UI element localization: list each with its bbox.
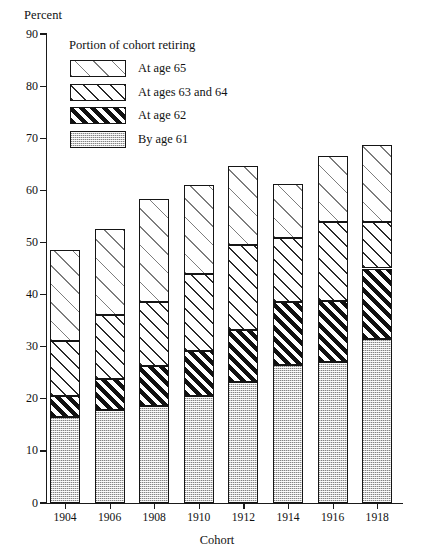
bar-1916 [318,156,348,503]
bar-segment [50,341,80,395]
bar-segment [228,166,258,245]
x-axis-title: Cohort [0,533,434,548]
x-tick [65,503,66,509]
bar-segment [184,274,214,351]
bar-segment [318,362,348,503]
legend-label: By age 61 [138,132,188,147]
bar-segment [184,185,214,274]
y-tick-label: 10 [0,444,38,456]
bar-segment [273,302,303,365]
bar-segment [362,222,392,269]
y-tick-label: 70 [0,132,38,144]
y-tick-label: 60 [0,184,38,196]
x-tick-label: 1906 [87,512,133,524]
x-tick [243,503,244,509]
y-tick [40,346,47,347]
bar-1910 [184,185,214,503]
y-axis-line [46,34,47,503]
legend-title: Portion of cohort retiring [69,38,195,53]
legend-label: At ages 63 and 64 [138,85,227,100]
legend-label: At age 65 [138,61,186,76]
legend-swatch [70,84,126,101]
bar-segment [50,417,80,503]
bar-segment [318,156,348,221]
bar-segment [50,250,80,341]
x-tick-label: 1904 [42,512,88,524]
bar-1904 [50,250,80,503]
legend-swatch [70,60,126,77]
bar-segment [95,410,125,503]
bar-segment [139,366,169,406]
bar-segment [139,302,169,366]
bar-segment [228,382,258,503]
bar-segment [139,199,169,302]
y-tick [40,190,47,191]
bar-segment [95,379,125,410]
x-axis-line [46,503,403,504]
y-tick [40,294,47,295]
y-tick [40,502,47,503]
y-tick-label: 90 [0,28,38,40]
bar-segment [95,229,125,315]
x-tick [154,503,155,509]
x-tick-label: 1918 [354,512,400,524]
x-tick-label: 1914 [265,512,311,524]
bar-segment [362,339,392,503]
bar-segment [184,396,214,503]
stacked-bar-chart: Percent 0102030405060708090 190419061908… [0,0,434,552]
plot-area: 0102030405060708090 19041906190819101912… [0,0,434,552]
y-tick [40,86,47,87]
bar-segment [50,396,80,417]
x-tick [333,503,334,509]
bar-1912 [228,166,258,503]
y-tick-label: 50 [0,236,38,248]
y-tick [40,450,47,451]
legend-swatch [70,131,126,148]
bar-segment [273,184,303,238]
y-tick [40,138,47,139]
bar-segment [184,351,214,396]
bar-segment [95,315,125,379]
legend-swatch [70,107,126,124]
y-tick-label: 20 [0,392,38,404]
y-tick-label: 40 [0,288,38,300]
bar-segment [228,330,258,382]
bar-segment [318,301,348,362]
y-tick [40,33,47,34]
bar-segment [228,245,258,330]
x-tick-label: 1916 [310,512,356,524]
legend-label: At age 62 [138,108,186,123]
bar-segment [362,269,392,340]
bar-segment [273,365,303,503]
y-tick-label: 80 [0,80,38,92]
x-tick [377,503,378,509]
x-tick [110,503,111,509]
x-tick [288,503,289,509]
y-tick [40,398,47,399]
x-tick-label: 1910 [176,512,222,524]
x-tick [199,503,200,509]
bar-1906 [95,229,125,503]
bar-segment [139,406,169,503]
y-tick-label: 0 [0,497,38,509]
y-tick [40,242,47,243]
bar-segment [273,238,303,302]
bar-1908 [139,199,169,503]
bar-segment [318,222,348,302]
x-tick-label: 1908 [131,512,177,524]
y-tick-label: 30 [0,340,38,352]
x-tick-label: 1912 [220,512,266,524]
bar-1914 [273,184,303,503]
bar-1918 [362,145,392,503]
bar-segment [362,145,392,222]
